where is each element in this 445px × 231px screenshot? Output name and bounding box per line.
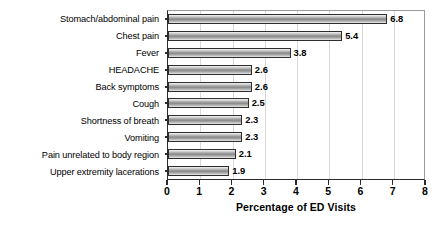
x-axis-tick-label: 6 — [358, 185, 364, 198]
category-label: Cough — [0, 99, 163, 109]
category-label: Back symptoms — [0, 82, 163, 92]
x-axis-tick-label: 2 — [229, 185, 235, 198]
y-axis-tick — [165, 35, 169, 36]
x-axis-title: Percentage of ED Visits — [167, 201, 425, 213]
bar-value-label: 2.1 — [239, 149, 252, 159]
bar-value-label: 2.6 — [255, 82, 268, 92]
bar-row: 2.6 — [168, 82, 424, 92]
bar-value-label: 2.6 — [255, 65, 268, 75]
bar — [168, 65, 252, 75]
x-axis-tick-label: 8 — [422, 185, 428, 198]
x-axis-tick-label: 3 — [261, 185, 267, 198]
bar-row: 2.5 — [168, 98, 424, 108]
bar-value-label: 2.3 — [245, 115, 258, 125]
x-axis-tick-label: 4 — [293, 185, 299, 198]
bar — [168, 166, 229, 176]
x-axis-tick-label: 5 — [325, 185, 331, 198]
category-label: Chest pain — [0, 31, 163, 41]
bar-row: 5.4 — [168, 31, 424, 41]
y-axis-tick — [165, 119, 169, 120]
bar-value-label: 5.4 — [345, 31, 358, 41]
bar-value-label: 2.3 — [245, 132, 258, 142]
y-axis-tick — [165, 18, 169, 19]
y-axis-tick — [165, 52, 169, 53]
bar — [168, 82, 252, 92]
bar-value-label: 2.5 — [252, 98, 265, 108]
bar-row: 2.1 — [168, 149, 424, 159]
y-axis-tick — [165, 102, 169, 103]
category-label: HEADACHE — [0, 65, 163, 75]
category-label: Shortness of breath — [0, 116, 163, 126]
x-axis-tick — [424, 180, 425, 185]
bar-series: 6.85.43.82.62.62.52.32.32.11.9 — [168, 11, 424, 179]
plot-area: 6.85.43.82.62.62.52.32.32.11.9 — [167, 10, 425, 180]
x-axis-tick-labels: 012345678 — [167, 185, 425, 199]
bar — [168, 149, 236, 159]
x-axis-tick-label: 1 — [196, 185, 202, 198]
bar-row: 2.3 — [168, 115, 424, 125]
bar — [168, 98, 249, 108]
category-label: Pain unrelated to body region — [0, 150, 163, 160]
x-axis-tick — [392, 180, 393, 185]
x-axis-tick — [295, 180, 296, 185]
bar-value-label: 6.8 — [390, 14, 403, 24]
bar — [168, 132, 242, 142]
bar — [168, 48, 291, 58]
y-axis-tick — [165, 170, 169, 171]
bar-value-label: 3.8 — [294, 48, 307, 58]
category-label: Fever — [0, 48, 163, 58]
x-axis-tick — [360, 180, 361, 185]
y-axis-tick — [165, 69, 169, 70]
x-axis-tick — [328, 180, 329, 185]
bar — [168, 14, 387, 24]
bar — [168, 31, 342, 41]
x-axis-tick-label: 7 — [390, 185, 396, 198]
category-label: Upper extremity lacerations — [0, 167, 163, 177]
x-axis-tick — [199, 180, 200, 185]
x-axis-tick — [231, 180, 232, 185]
category-label: Vomiting — [0, 133, 163, 143]
x-axis-tick — [166, 180, 167, 185]
bar-value-label: 1.9 — [232, 166, 245, 176]
x-axis-tick — [263, 180, 264, 185]
bar — [168, 115, 242, 125]
bar-row: 3.8 — [168, 48, 424, 58]
category-label: Stomach/abdominal pain — [0, 14, 163, 24]
x-axis-tick-label: 0 — [164, 185, 170, 198]
bar-row: 2.6 — [168, 65, 424, 75]
bar-row: 2.3 — [168, 132, 424, 142]
category-axis-labels: Stomach/abdominal pain Chest pain Fever … — [0, 10, 163, 180]
y-axis-tick — [165, 153, 169, 154]
bar-row: 6.8 — [168, 14, 424, 24]
bar-row: 1.9 — [168, 166, 424, 176]
horizontal-bar-chart: Stomach/abdominal pain Chest pain Fever … — [0, 0, 445, 231]
y-axis-tick — [165, 86, 169, 87]
y-axis-tick — [165, 136, 169, 137]
